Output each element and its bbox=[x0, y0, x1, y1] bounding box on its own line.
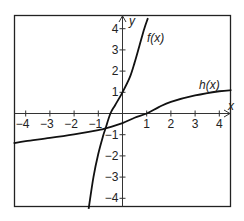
y-tick-label: 2 bbox=[112, 64, 119, 78]
x-tick-label: 1 bbox=[143, 117, 150, 131]
x-tick-label: 4 bbox=[216, 117, 223, 131]
x-tick-label: −3 bbox=[40, 117, 54, 131]
x-axis-label: x bbox=[227, 99, 235, 113]
x-tick-label: 3 bbox=[192, 117, 199, 131]
x-tick-label: −2 bbox=[64, 117, 78, 131]
f-label: f(x) bbox=[147, 31, 164, 45]
y-tick-label: −1 bbox=[105, 128, 119, 142]
y-tick-label: 3 bbox=[112, 43, 119, 57]
h-label: h(x) bbox=[199, 78, 220, 92]
y-tick-label: 1 bbox=[112, 85, 119, 99]
y-tick-label: 4 bbox=[112, 22, 119, 36]
y-tick-label: −2 bbox=[105, 149, 119, 163]
x-tick-label: −1 bbox=[88, 117, 102, 131]
x-tick-label: −4 bbox=[16, 117, 30, 131]
y-tick-label: −4 bbox=[105, 191, 119, 205]
y-tick-label: −3 bbox=[105, 170, 119, 184]
y-axis-label: y bbox=[128, 14, 136, 28]
x-tick-label: 2 bbox=[168, 117, 175, 131]
chart: x y −4−3−2−11234 −4−3−2−11234 f(x) h(x) bbox=[0, 0, 244, 221]
